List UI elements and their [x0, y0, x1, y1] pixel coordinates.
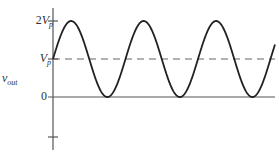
- label-2vp: 2Vp: [36, 14, 53, 26]
- label-zero: 0: [41, 90, 47, 102]
- y-axis-label-vout: vout: [2, 72, 18, 84]
- label-vp: Vp: [40, 52, 51, 64]
